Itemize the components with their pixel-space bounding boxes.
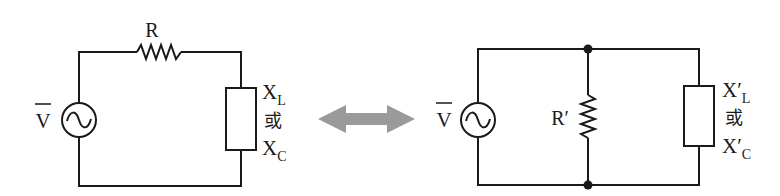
series-resistor-label: R <box>145 19 159 41</box>
series-source-label: V <box>35 109 50 133</box>
parallel-reactance-icon <box>684 86 714 146</box>
series-circuit: R V XL 或 XC <box>35 19 287 186</box>
series-wire-right-bottom <box>79 138 241 186</box>
parallel-sine-wave-icon <box>466 113 490 128</box>
parallel-source-label: V <box>436 108 451 132</box>
series-xl-label: XL <box>262 80 286 108</box>
series-or-label: 或 <box>264 110 282 131</box>
series-wire-left <box>79 52 137 103</box>
series-wire-top-right <box>181 52 241 88</box>
series-reactance-icon <box>226 88 256 150</box>
parallel-circuit: R′ V X′L 或 X′C <box>436 45 751 190</box>
parallel-node-bottom <box>584 181 593 190</box>
circuit-diagram: R V XL 或 XC R′ V <box>0 0 780 196</box>
parallel-or-label: 或 <box>725 107 743 128</box>
series-xc-label: XC <box>262 136 287 164</box>
series-resistor-icon <box>137 45 181 59</box>
parallel-resistor-icon <box>581 95 595 138</box>
equivalence-double-arrow-icon <box>318 105 415 133</box>
parallel-node-top <box>584 45 593 54</box>
parallel-resistor-label: R′ <box>551 107 569 129</box>
series-sine-wave-icon <box>67 113 91 128</box>
parallel-xc-label: X′C <box>722 134 751 162</box>
parallel-xl-label: X′L <box>722 78 750 106</box>
